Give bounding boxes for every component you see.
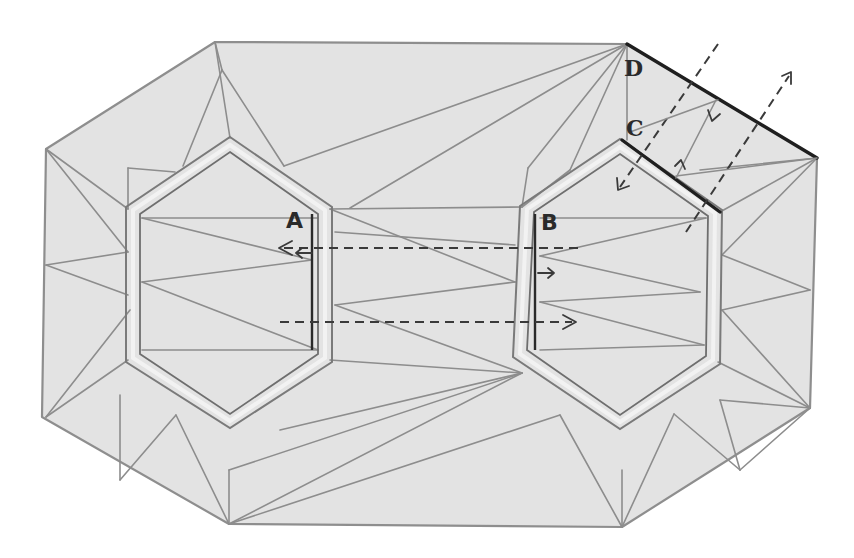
label-A: A [286, 210, 303, 232]
label-B: B [541, 212, 558, 234]
label-D: D [624, 57, 643, 79]
crease-pattern-diagram [0, 0, 854, 558]
label-C: C [626, 117, 644, 139]
